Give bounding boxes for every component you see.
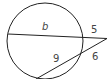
label-6: 6 — [92, 51, 98, 62]
label-5: 5 — [91, 24, 97, 35]
secant-diagram: b 5 9 6 — [0, 0, 108, 79]
label-9: 9 — [53, 53, 59, 64]
label-b: b — [42, 21, 48, 32]
circle — [7, 3, 83, 79]
